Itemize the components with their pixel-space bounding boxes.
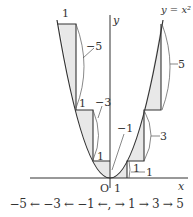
left-rise1-leader bbox=[112, 134, 124, 170]
left-step3-width-label: 1 bbox=[62, 7, 69, 20]
left-step1-rise-label: −1 bbox=[117, 122, 133, 135]
sequence-caption: −5 ← −3 ← −1 ←, → 1 → 3 → 5 bbox=[0, 197, 193, 211]
left-step1-width-label: 1 bbox=[97, 150, 104, 163]
right-step1-width-label: 1 bbox=[133, 162, 140, 175]
left-step2-width-label: 1 bbox=[79, 97, 86, 110]
right-step1-rise-label: 1 bbox=[146, 166, 153, 179]
right-step2-rise-label: 3 bbox=[160, 130, 167, 143]
curve-label: y = x² bbox=[160, 4, 191, 15]
origin-label: O bbox=[100, 182, 109, 195]
left-step3-rise-label: −5 bbox=[86, 40, 102, 53]
right-step3-rise-label: 5 bbox=[178, 58, 185, 71]
left-step2-rise-label: −3 bbox=[95, 96, 111, 109]
right-step1-bracket bbox=[129, 161, 130, 178]
parabola-staircase-diagram: y = x² y x O 1 1 −5 1 −3 1 −1 1 1 3 5 bbox=[0, 0, 193, 217]
right-shaded-regions bbox=[110, 24, 161, 178]
x-axis-label: x bbox=[178, 180, 185, 193]
right-rise3-arc bbox=[144, 110, 151, 161]
x-tick-one-label: 1 bbox=[114, 182, 121, 195]
y-axis-label: y bbox=[112, 14, 120, 27]
right-rise5-arc bbox=[162, 24, 170, 110]
left-rise5-arc bbox=[76, 24, 84, 108]
